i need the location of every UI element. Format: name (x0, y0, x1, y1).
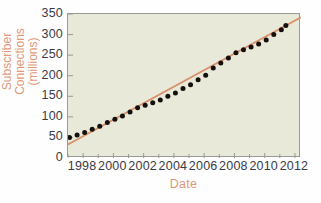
x-axis-title: Date (67, 177, 300, 191)
data-point (211, 65, 216, 70)
data-point (173, 90, 178, 95)
plot-canvas (68, 14, 301, 158)
y-axis-tick-label: 50 (49, 129, 63, 143)
plot-area (67, 13, 300, 157)
data-point (241, 47, 246, 52)
data-point (135, 105, 140, 110)
data-point (105, 120, 110, 125)
x-axis-tick-label: 2010 (249, 159, 278, 173)
data-point (226, 56, 231, 61)
data-point (75, 132, 80, 137)
y-axis-tick-label: 100 (42, 109, 63, 123)
data-point (165, 94, 170, 99)
trend-line (68, 17, 301, 144)
data-point (150, 100, 155, 105)
data-point (120, 114, 125, 119)
data-point (128, 109, 133, 114)
y-axis-tick-label: 350 (42, 6, 63, 20)
data-point (97, 124, 102, 129)
data-point (112, 117, 117, 122)
data-point (180, 86, 185, 91)
data-point (283, 23, 288, 28)
y-axis-tick-label: 0 (56, 150, 63, 164)
data-point (188, 82, 193, 87)
data-point (271, 32, 276, 37)
data-point (203, 73, 208, 78)
data-point (68, 135, 72, 140)
data-point (279, 27, 284, 32)
x-axis-tick-label: 2006 (189, 159, 218, 173)
data-point (196, 77, 201, 82)
x-axis-tick-label: 2008 (219, 159, 248, 173)
data-point (249, 44, 254, 49)
y-axis-tick-label: 200 (42, 68, 63, 82)
data-point (90, 127, 95, 132)
y-axis-tick-label: 300 (42, 27, 63, 41)
data-point (218, 60, 223, 65)
x-axis-tick-label: 2004 (159, 159, 188, 173)
data-point (233, 50, 238, 55)
x-axis-tick-label: 2002 (128, 159, 157, 173)
x-axis-tick-label: 2000 (98, 159, 127, 173)
data-point (264, 37, 269, 42)
data-point (256, 42, 261, 47)
y-axis-title: Subscriber Connections (millions) (1, 6, 40, 118)
data-point (158, 97, 163, 102)
y-axis-tick-label: 150 (42, 88, 63, 102)
x-axis-tick-labels: 19982000200220042006200820102012 (67, 159, 300, 175)
data-point (82, 130, 87, 135)
y-axis-tick-label: 250 (42, 47, 63, 61)
x-axis-tick-label: 2012 (280, 159, 309, 173)
chart-figure: 050100150200250300350 Subscriber Connect… (0, 0, 321, 203)
x-axis-tick-label: 1998 (68, 159, 97, 173)
data-point (143, 103, 148, 108)
